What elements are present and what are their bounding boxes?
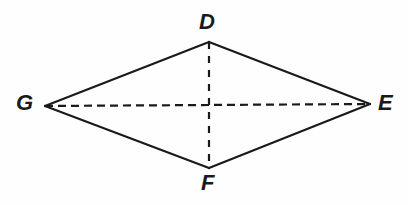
vertex-label-f: F [201, 172, 214, 194]
diagram-canvas: D E F G [0, 0, 408, 205]
edge-D-to-E [209, 42, 370, 104]
vertex-label-g: G [16, 92, 33, 114]
vertex-label-d: D [199, 11, 215, 33]
vertex-label-e: E [378, 92, 393, 114]
edge-E-to-F [209, 104, 370, 168]
edge-G-to-D [45, 42, 209, 106]
edge-F-to-G [45, 106, 209, 168]
diagonal-G-to-E [45, 104, 370, 106]
